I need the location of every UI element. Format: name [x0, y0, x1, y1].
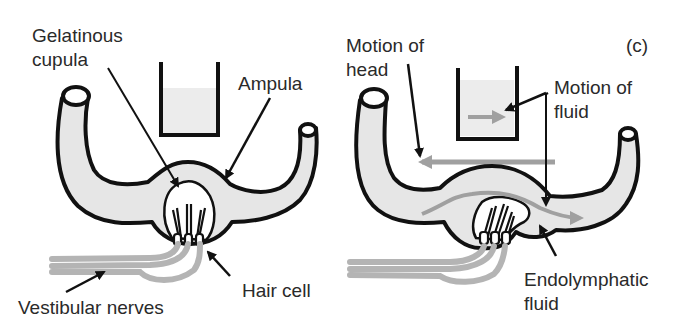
label-motion-of-fluid-2: fluid	[554, 101, 589, 122]
fluid-container-left	[161, 62, 218, 135]
canal-opening-right	[300, 124, 316, 136]
label-cupula: cupula	[32, 49, 88, 70]
label-vestibular-nerves: Vestibular nerves	[18, 297, 164, 318]
vestibular-nerves-right	[350, 246, 505, 282]
canal-opening-right-r	[620, 128, 636, 140]
label-endo-fluid: fluid	[524, 293, 559, 314]
label-endolymphatic: Endolymphatic	[524, 269, 649, 290]
panel-label: (c)	[626, 35, 648, 56]
label-ampula: Ampula	[238, 73, 303, 94]
label-hair-cell: Hair cell	[242, 280, 311, 301]
canal-opening-left-r	[361, 89, 387, 107]
fluid-container-right	[458, 66, 517, 139]
label-motion-of-head-1: Motion of	[346, 35, 425, 56]
semicircular-canal-diagram: Gelatinous cupula Ampula Hair cell Vesti…	[0, 0, 688, 334]
label-motion-of-head-2: head	[346, 59, 388, 80]
ampula-leader	[226, 98, 270, 178]
vestibular-nerves-left	[52, 244, 200, 280]
canal-opening-left	[63, 87, 89, 105]
cupula-left	[164, 181, 214, 240]
hair-cell-leader	[208, 252, 230, 276]
label-motion-of-fluid-1: Motion of	[554, 77, 633, 98]
left-panel: Gelatinous cupula Ampula Hair cell Vesti…	[18, 25, 317, 318]
head-leader	[408, 64, 420, 156]
label-gelatinous: Gelatinous	[32, 25, 123, 46]
right-panel: Motion of head Motion of fluid Endolymph…	[346, 35, 649, 314]
